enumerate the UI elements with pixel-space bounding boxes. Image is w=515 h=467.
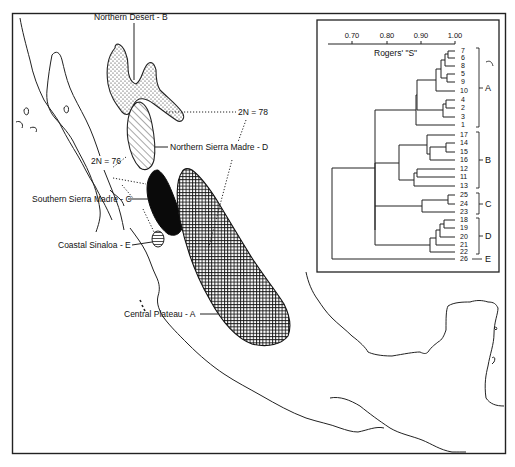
leaf-label: 14 (460, 139, 468, 146)
leaf-label: 4 (461, 96, 465, 103)
group-label-e: E (485, 255, 491, 264)
group-label-c: C (485, 200, 492, 209)
leaf-label: 3 (461, 113, 465, 120)
leaf-label: 16 (460, 156, 468, 163)
figure-canvas (0, 0, 515, 467)
axis-tick-0-90: 0.90 (414, 32, 429, 40)
leaf-label: 21 (460, 241, 468, 248)
leaf-label: 2 (461, 104, 465, 111)
group-label-b: B (485, 156, 491, 165)
leaf-label: 26 (460, 255, 468, 262)
leaf-label: 25 (460, 191, 468, 198)
label-central-plateau-a: Central Plateau - A (124, 310, 195, 319)
leaf-label: 23 (460, 208, 468, 215)
leaf-label: 10 (460, 87, 468, 94)
annotation-2n-78: 2N = 78 (238, 108, 268, 117)
leaf-label: 6 (461, 54, 465, 61)
region-northern-sierra-madre-d (127, 102, 155, 170)
leaf-label: 19 (460, 224, 468, 231)
leaf-label: 22 (460, 248, 468, 255)
leaf-label: 15 (460, 148, 468, 155)
axis-title: Rogers' "S" (374, 49, 417, 58)
annotation-2n-76: 2N = 76 (91, 157, 121, 166)
axis-tick-0-70: 0.70 (345, 32, 360, 40)
group-label-d: D (485, 232, 492, 241)
leaf-label: 9 (461, 78, 465, 85)
region-coastal-sinaloa-e (152, 231, 164, 247)
leaf-label: 1 (461, 121, 465, 128)
leaf-label: 13 (460, 182, 468, 189)
label-coastal-sinaloa-e: Coastal Sinaloa - E (58, 241, 131, 250)
region-central-plateau-a (177, 169, 290, 346)
leaf-label: 24 (460, 200, 468, 207)
leaf-label: 20 (460, 233, 468, 240)
leaf-label: 18 (460, 216, 468, 223)
axis-tick-0-80: 0.80 (380, 32, 395, 40)
label-northern-sierra-madre-d: Northern Sierra Madre - D (170, 143, 268, 152)
leaf-label: 8 (461, 62, 465, 69)
leaf-label: 7 (461, 47, 465, 54)
leaf-label: 12 (460, 165, 468, 172)
label-southern-sierra-madre-c: Southern Sierra Madre - C (32, 195, 132, 204)
axis-tick-1-00: 1.00 (448, 32, 463, 40)
label-northern-desert-b: Northern Desert - B (94, 13, 168, 22)
leaf-label: 17 (460, 131, 468, 138)
leaf-label: 11 (460, 173, 467, 180)
group-label-a: A (485, 84, 491, 93)
leaf-label: 5 (461, 70, 465, 77)
